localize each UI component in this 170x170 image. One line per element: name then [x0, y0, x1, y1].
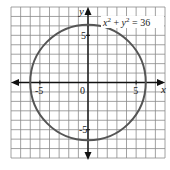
x-tick-label: -5	[35, 85, 43, 96]
coordinate-plane: -555-5 0 x y x2 + y2 = 36	[0, 0, 170, 170]
y-tick-label: 5	[81, 30, 86, 41]
x-axis-label: x	[160, 83, 166, 95]
chart-container: -555-5 0 x y x2 + y2 = 36	[0, 0, 170, 170]
x-axis-arrow-left	[11, 79, 19, 86]
y-axis-label: y	[78, 5, 84, 17]
origin-label: 0	[80, 85, 85, 96]
eq-plus: +	[111, 17, 122, 28]
y-tick-label: -5	[79, 124, 87, 135]
x-tick-label: 5	[133, 85, 138, 96]
y-axis-arrow-bottom	[85, 152, 92, 160]
eq-rhs: = 36	[130, 17, 151, 28]
y-axis-arrow-top	[85, 7, 92, 15]
